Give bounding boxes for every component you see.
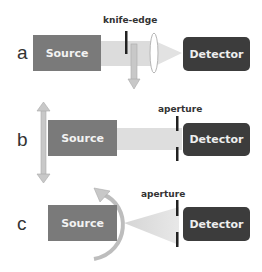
- aperture-top: [176, 116, 179, 131]
- detector-box: Detector: [183, 207, 250, 241]
- focused-beam: [155, 41, 182, 66]
- source-box: Source: [48, 205, 117, 241]
- aperture-label: aperture: [141, 189, 185, 199]
- knife-edge-blade: [125, 31, 128, 54]
- aperture-top: [176, 200, 179, 216]
- detector-box: Detector: [183, 123, 250, 156]
- source-box: Source: [48, 120, 117, 156]
- lens-icon: [150, 33, 158, 73]
- source-box: Source: [33, 35, 101, 71]
- aperture-bottom: [176, 232, 179, 247]
- detector-box: Detector: [183, 37, 250, 71]
- panel-label-b: b: [17, 129, 28, 151]
- panel-label-c: c: [17, 213, 27, 235]
- beam: [116, 128, 182, 150]
- aperture-bottom: [176, 147, 179, 161]
- aperture-label: aperture: [158, 104, 202, 114]
- panel-label-a: a: [17, 42, 28, 64]
- beam-cone: [124, 207, 179, 245]
- panel-a-graphics: [100, 31, 182, 89]
- knife-edge-label: knife-edge: [103, 15, 157, 25]
